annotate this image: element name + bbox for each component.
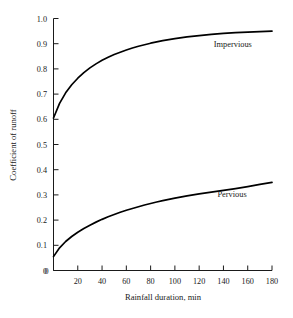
y-tick-label-5: 0.5 bbox=[37, 141, 47, 150]
x-axis-title: Rainfall duration, min bbox=[125, 292, 202, 302]
axis-frame bbox=[54, 19, 273, 271]
x-tick-labels: 020406080100120140160180 bbox=[44, 267, 278, 286]
x-tick-label-5: 100 bbox=[169, 277, 181, 286]
data-curves bbox=[54, 31, 273, 257]
series-label-pervious: Pervious bbox=[217, 190, 246, 199]
x-tick-label-3: 60 bbox=[122, 277, 130, 286]
series-labels: ImperviousPervious bbox=[214, 40, 252, 198]
y-tick-label-9: 0.9 bbox=[37, 40, 47, 49]
x-tick-label-9: 180 bbox=[266, 277, 278, 286]
y-axis-title: Coefficient of runoff bbox=[8, 109, 18, 180]
y-tick-label-4: 0.4 bbox=[37, 166, 47, 175]
y-tick-labels: 00.10.20.30.40.50.60.70.80.91.0 bbox=[37, 15, 47, 276]
chart-canvas: 00.10.20.30.40.50.60.70.80.91.0 02040608… bbox=[0, 0, 293, 318]
y-tick-label-8: 0.8 bbox=[37, 65, 47, 74]
x-tick-label-7: 140 bbox=[217, 277, 229, 286]
runoff-coefficient-chart: 00.10.20.30.40.50.60.70.80.91.0 02040608… bbox=[0, 0, 293, 318]
x-tick-label-8: 160 bbox=[242, 277, 254, 286]
y-tick-label-10: 1.0 bbox=[37, 15, 47, 24]
series-label-impervious: Impervious bbox=[214, 40, 252, 49]
y-tick-label-6: 0.6 bbox=[37, 115, 47, 124]
x-tick-label-0: 0 bbox=[44, 267, 48, 276]
x-tick-label-4: 80 bbox=[147, 277, 155, 286]
x-tick-label-1: 20 bbox=[74, 277, 82, 286]
y-tick-label-3: 0.3 bbox=[37, 191, 47, 200]
axes bbox=[54, 19, 273, 271]
y-tick-label-2: 0.2 bbox=[37, 216, 47, 225]
y-tick-label-1: 0.1 bbox=[37, 241, 47, 250]
axis-ticks bbox=[54, 19, 273, 271]
x-tick-label-6: 120 bbox=[193, 277, 205, 286]
y-tick-label-7: 0.7 bbox=[37, 90, 47, 99]
x-tick-label-2: 40 bbox=[98, 277, 106, 286]
